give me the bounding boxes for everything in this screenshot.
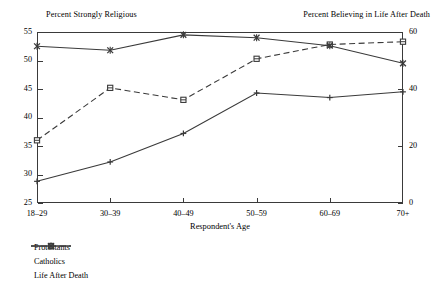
x-axis-tick — [110, 198, 111, 203]
series-line — [37, 92, 403, 182]
left-axis-tick-label: 35 — [8, 141, 32, 150]
left-axis-tick — [38, 175, 43, 176]
left-axis-tick — [38, 89, 43, 90]
x-axis-tick — [183, 198, 184, 203]
legend-label: Life After Death — [29, 271, 88, 280]
left-axis-tick-label: 55 — [8, 27, 32, 36]
data-point — [327, 95, 333, 101]
right-axis-tick-label: 20 — [409, 141, 433, 150]
legend-item-life-after-death: Life After Death — [29, 268, 88, 282]
chart-figure: Percent Strongly Religious Percent Belie… — [0, 0, 440, 289]
left-axis-tick — [38, 118, 43, 119]
x-axis-tick-label: 70+ — [373, 209, 433, 218]
right-axis-tick — [398, 32, 403, 33]
x-axis-tick-label: 30–39 — [80, 209, 140, 218]
x-axis-tick-label: 60–69 — [300, 209, 360, 218]
right-axis-tick — [398, 203, 403, 204]
right-axis-tick-label: 60 — [409, 27, 433, 36]
data-point — [400, 39, 405, 44]
series-life-after-death — [34, 31, 406, 67]
legend-item-catholics: Catholics — [29, 254, 88, 268]
data-point — [108, 85, 113, 90]
chart-legend: ProtestantsCatholicsLife After Death — [29, 240, 88, 282]
right-axis-tick-label: 0 — [409, 198, 433, 207]
data-point — [34, 178, 40, 184]
left-axis-tick — [38, 146, 43, 147]
x-axis-tick-label: 50–59 — [227, 209, 287, 218]
series-protestants — [34, 39, 405, 143]
data-point — [254, 90, 260, 96]
legend-swatch — [29, 240, 73, 252]
left-axis-tick — [38, 61, 43, 62]
data-point — [254, 56, 259, 61]
right-axis-tick — [398, 146, 403, 147]
legend-label: Catholics — [29, 257, 65, 266]
data-point — [181, 97, 186, 102]
series-catholics — [34, 89, 406, 184]
data-point — [34, 138, 39, 143]
data-point — [107, 159, 113, 165]
left-axis-tick-label: 45 — [8, 84, 32, 93]
left-axis-tick-label: 40 — [8, 112, 32, 121]
left-axis-tick-label: 50 — [8, 55, 32, 64]
left-axis-tick — [38, 32, 43, 33]
left-axis-tick — [38, 203, 43, 204]
right-axis-tick — [398, 89, 403, 90]
right-axis-tick-label: 40 — [409, 84, 433, 93]
left-axis-tick-label: 30 — [8, 169, 32, 178]
series-line — [37, 42, 403, 141]
x-axis-tick — [330, 198, 331, 203]
x-axis-title: Respondent's Age — [0, 222, 440, 231]
series-line — [37, 35, 403, 63]
x-axis-tick — [257, 198, 258, 203]
data-point — [181, 131, 187, 137]
left-axis-tick-label: 25 — [8, 198, 32, 207]
x-axis-tick-label: 40–49 — [153, 209, 213, 218]
x-axis-tick-label: 18–29 — [7, 209, 67, 218]
